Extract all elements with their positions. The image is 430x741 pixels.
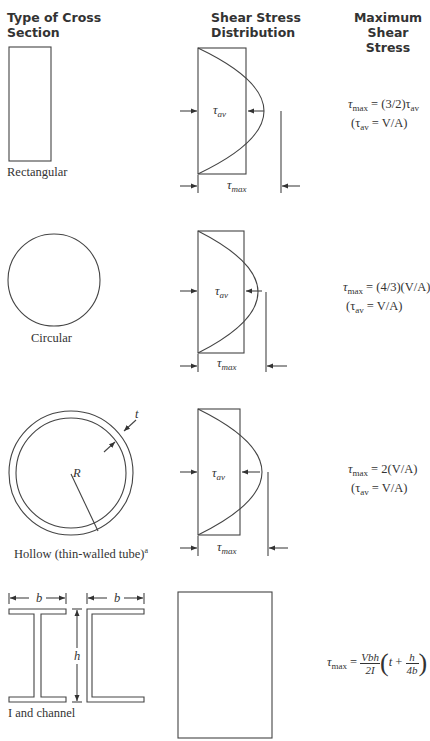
circ-tau-av-label: τav [215,284,228,300]
rectangular-label: Rectangular [7,165,67,180]
rect-tau-av-label: τav [213,103,226,119]
circ-formula-line2: (τav = V/A) [343,299,430,318]
frac-h-over-4b: h4b [406,651,419,676]
circular-label: Circular [31,331,72,346]
rectangular-section-shape [9,47,51,161]
frac-vbh-over-2i: Vbh2I [360,651,380,676]
hollow-tau-av-label: τav [212,466,225,482]
thickness-label-t: t [135,407,138,422]
i-channel-distribution-box [178,592,272,738]
hollow-label: Hollow (thin-walled tube)a [14,546,148,562]
i-and-channel-label: I and channel [8,706,75,721]
i-beam-width-label-b: b [34,591,44,606]
circ-formula-line1: τmax = (4/3)(V/A) [343,280,430,299]
circular-section-shape [8,234,100,326]
circular-distribution [180,231,287,372]
channel-width-label-b: b [112,591,122,606]
hollow-formula-line1: τmax = 2(V/A) [348,462,417,481]
i-channel-formula: τmax = Vbh2I(t + h4b) [327,650,427,676]
height-label-h: h [73,649,81,664]
hollow-formula-line2: (τav = V/A) [348,481,417,500]
i-beam-shape [9,609,66,702]
radius-label-r: R [73,466,81,481]
hollow-tau-max-label: τmax [217,540,236,556]
channel-shape [87,609,144,702]
circ-formula: τmax = (4/3)(V/A) (τav = V/A) [343,280,430,318]
hollow-formula: τmax = 2(V/A) (τav = V/A) [348,462,417,500]
rect-formula-line1: τmax = (3/2)τav [348,97,419,116]
rect-formula-line2: (τav = V/A) [348,116,419,135]
rect-distribution [180,48,300,193]
rect-formula: τmax = (3/2)τav (τav = V/A) [348,97,419,135]
rect-tau-max-label: τmax [227,178,246,194]
circ-tau-max-label: τmax [217,356,236,372]
hollow-distribution [180,409,288,556]
